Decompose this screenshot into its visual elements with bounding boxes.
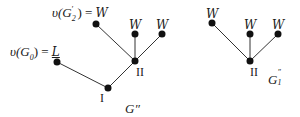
caption-right-main: G bbox=[268, 72, 277, 87]
label-node-II-right: II bbox=[250, 66, 258, 79]
label-w2: W bbox=[156, 19, 168, 32]
label-g0-eq: ) = bbox=[34, 44, 52, 59]
node-I bbox=[105, 85, 112, 92]
label-g2-value: W bbox=[96, 6, 108, 20]
caption-G1-double-prime: G″1 bbox=[268, 73, 277, 86]
label-g0-prefix: υ(G bbox=[10, 44, 30, 59]
label-g0: υ(G0) = L bbox=[10, 45, 60, 64]
edge-g0-I bbox=[57, 62, 108, 88]
edge-I-II bbox=[108, 61, 135, 88]
label-w-c: W bbox=[272, 19, 284, 32]
caption-G-double-prime: G″ bbox=[125, 102, 140, 115]
label-g2-sub: 2 bbox=[72, 14, 76, 23]
node-II-right bbox=[247, 58, 254, 65]
edge-II-c bbox=[250, 34, 278, 61]
label-g0-value: L bbox=[52, 45, 60, 59]
label-w-a: W bbox=[206, 8, 218, 21]
edge-II-w2 bbox=[135, 34, 162, 61]
label-node-I: I bbox=[100, 92, 104, 105]
node-II-left bbox=[132, 58, 139, 65]
label-node-II-left: II bbox=[136, 66, 144, 79]
label-g2-eq: ) = bbox=[77, 5, 95, 20]
edges bbox=[57, 23, 278, 88]
label-g2: υ(G2′) = W bbox=[52, 6, 108, 25]
label-w1: W bbox=[129, 19, 141, 32]
label-g2-prefix: υ(G bbox=[52, 5, 72, 20]
label-w-b: W bbox=[244, 19, 256, 32]
caption-right-sub: 1 bbox=[277, 76, 281, 89]
